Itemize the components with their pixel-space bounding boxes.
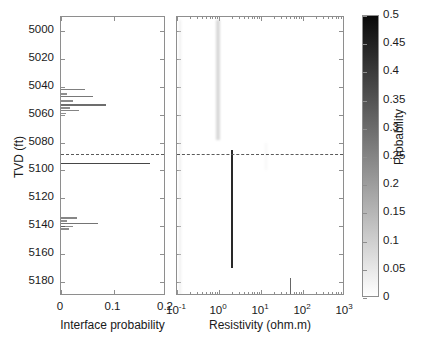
probability-colorbar[interactable] (362, 15, 379, 297)
axis-tick (339, 226, 343, 227)
axis-minor-tick (259, 292, 260, 294)
axis-minor-tick (210, 292, 211, 294)
colorbar-tick (363, 44, 367, 45)
axis-tick (61, 59, 65, 60)
axis-tick (339, 31, 343, 32)
left-x-tick-label: 0.1 (93, 301, 133, 313)
y-tick-label: 5160 (0, 247, 54, 259)
axis-minor-tick (336, 17, 337, 19)
colorbar-tick (363, 242, 367, 243)
axis-minor-tick (252, 292, 253, 294)
colorbar-tick-label: 0.4 (383, 65, 399, 77)
axis-tick (261, 17, 262, 21)
axis-tick (160, 31, 164, 32)
colorbar-tick (363, 129, 367, 130)
axis-minor-tick (296, 17, 297, 19)
axis-minor-tick (301, 292, 302, 294)
axis-tick (160, 282, 164, 283)
y-axis-title: TVD (ft) (12, 122, 26, 192)
y-tick-label: 5100 (0, 163, 54, 175)
reference-depth-line-right (177, 154, 343, 155)
colorbar-tick-label: 0.05 (383, 263, 405, 275)
axis-minor-tick (190, 292, 191, 294)
axis-minor-tick (248, 292, 249, 294)
axis-minor-tick (328, 17, 329, 19)
axis-tick (160, 226, 164, 227)
interface-probability-spike (61, 226, 73, 228)
axis-tick (339, 254, 343, 255)
axis-minor-tick (197, 292, 198, 294)
axis-tick (114, 290, 115, 294)
axis-tick (339, 143, 343, 144)
axis-minor-tick (343, 292, 344, 294)
right-x-tick-label: 102 (282, 301, 322, 316)
colorbar-tick (363, 298, 367, 299)
axis-minor-tick (294, 292, 295, 294)
axis-minor-tick (294, 17, 295, 19)
axis-tick (177, 17, 178, 21)
axis-minor-tick (332, 292, 333, 294)
axis-tick (61, 87, 65, 88)
axis-minor-tick (338, 17, 339, 19)
resistivity-probability-band (216, 20, 220, 140)
interface-probability-spike (61, 220, 67, 222)
y-tick-label: 5000 (0, 24, 54, 36)
axis-tick (61, 31, 65, 32)
resistivity-probability-band (231, 150, 232, 269)
axis-minor-tick (343, 17, 344, 19)
resistivity-probability-band (265, 143, 268, 171)
axis-minor-tick (202, 292, 203, 294)
axis-minor-tick (248, 17, 249, 19)
interface-probability-spike (61, 96, 93, 98)
colorbar-tick-label: 0.1 (383, 235, 399, 247)
axis-minor-tick (281, 292, 282, 294)
colorbar-tick (363, 185, 367, 186)
axis-minor-tick (281, 17, 282, 19)
axis-minor-tick (252, 17, 253, 19)
axis-minor-tick (328, 292, 329, 294)
y-tick-label: 5060 (0, 108, 54, 120)
axis-tick (160, 59, 164, 60)
axis-minor-tick (232, 292, 233, 294)
interface-probability-panel[interactable] (60, 16, 165, 295)
colorbar-tick-label: 0.2 (383, 178, 399, 190)
axis-minor-tick (338, 292, 339, 294)
axis-minor-tick (336, 292, 337, 294)
axis-minor-tick (239, 292, 240, 294)
axis-minor-tick (215, 292, 216, 294)
axis-minor-tick (202, 17, 203, 19)
y-tick-label: 5120 (0, 191, 54, 203)
axis-tick (339, 282, 343, 283)
axis-minor-tick (212, 17, 213, 19)
axis-tick (61, 115, 65, 116)
right-x-tick-label: 100 (198, 301, 238, 316)
axis-minor-tick (217, 292, 218, 294)
axis-minor-tick (254, 17, 255, 19)
axis-tick (160, 143, 164, 144)
axis-tick (339, 198, 343, 199)
interface-probability-spike (61, 100, 73, 102)
axis-minor-tick (286, 292, 287, 294)
y-tick-label: 5040 (0, 80, 54, 92)
axis-tick (339, 170, 343, 171)
axis-tick (114, 17, 115, 21)
colorbar-tick (363, 213, 367, 214)
axis-minor-tick (232, 17, 233, 19)
axis-minor-tick (257, 17, 258, 19)
axis-minor-tick (299, 292, 300, 294)
axis-tick (61, 254, 65, 255)
axis-tick (303, 290, 304, 294)
interface-probability-spike (61, 89, 85, 91)
axis-tick (303, 17, 304, 21)
axis-tick (160, 170, 164, 171)
axis-minor-tick (197, 17, 198, 19)
axis-minor-tick (341, 292, 342, 294)
axis-tick (61, 170, 65, 171)
axis-tick (61, 17, 62, 21)
resistivity-panel[interactable] (176, 16, 344, 295)
right-x-tick-label: 103 (324, 301, 364, 316)
reference-depth-line-left (61, 154, 164, 155)
interface-probability-spike (61, 93, 67, 95)
axis-tick (160, 254, 164, 255)
interface-probability-spike (61, 113, 66, 115)
